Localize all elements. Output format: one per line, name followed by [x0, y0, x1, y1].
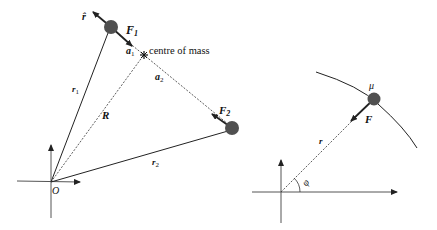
r1-vector — [51, 33, 108, 182]
centre-of-mass-marker — [140, 51, 148, 59]
left-axes — [17, 145, 80, 218]
r1-label: r1 — [72, 84, 80, 96]
r-label: r — [319, 136, 323, 146]
left-x-axis — [17, 181, 80, 182]
r2-vector — [51, 131, 228, 182]
origin-label: O — [52, 185, 59, 196]
F1-label: F1 — [125, 23, 138, 38]
phi-label: φ — [299, 176, 311, 188]
two-body-diagram: r̂ F1 a1 centre of mass a2 r1 R F2 r2 O … — [0, 0, 437, 230]
left-diagram: r̂ F1 a1 centre of mass a2 r1 R F2 r2 O — [17, 11, 239, 218]
r-hat-label: r̂ — [82, 11, 87, 22]
mass-1 — [104, 20, 118, 34]
right-axes — [252, 160, 397, 223]
orbit-arc — [316, 72, 417, 148]
F2-label: F2 — [218, 104, 230, 118]
centre-of-mass-label: centre of mass — [149, 45, 210, 56]
right-diagram: μ F r φ — [252, 72, 417, 223]
F-label: F — [364, 113, 373, 125]
mass-2 — [225, 121, 239, 135]
R-label: R — [101, 109, 109, 121]
mass-mu — [368, 93, 381, 106]
mu-label: μ — [368, 80, 374, 91]
a1-label: a1 — [126, 45, 135, 58]
R-vector — [51, 56, 143, 182]
r2-label: r2 — [152, 157, 160, 169]
a2-label: a2 — [155, 71, 164, 84]
